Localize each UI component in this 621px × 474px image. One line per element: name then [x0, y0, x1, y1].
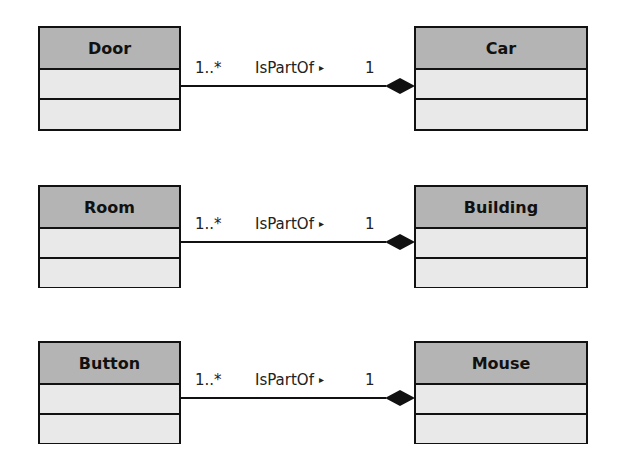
whole-multiplicity: 1 [365, 215, 375, 233]
operations-compartment [40, 415, 179, 443]
attributes-compartment [416, 229, 586, 259]
attributes-compartment [40, 385, 179, 415]
class-name: Mouse [416, 343, 586, 385]
class-room[interactable]: Room [38, 185, 181, 288]
operations-compartment [40, 259, 179, 287]
attributes-compartment [416, 385, 586, 415]
class-name: Building [416, 187, 586, 229]
class-name: Button [40, 343, 179, 385]
whole-multiplicity: 1 [365, 59, 375, 77]
direction-arrow-icon: ▸ [319, 62, 324, 73]
part-multiplicity: 1..* [195, 371, 222, 389]
direction-arrow-icon: ▸ [319, 374, 324, 385]
composition-line [181, 232, 414, 252]
class-car[interactable]: Car [414, 26, 588, 131]
association-label: IsPartOf▸ [255, 215, 324, 233]
composition-line [181, 388, 414, 408]
class-name: Door [40, 28, 179, 70]
class-mouse[interactable]: Mouse [414, 341, 588, 444]
association-label: IsPartOf▸ [255, 371, 324, 389]
attributes-compartment [40, 70, 179, 100]
composition-line [181, 76, 414, 96]
part-multiplicity: 1..* [195, 215, 222, 233]
part-multiplicity: 1..* [195, 59, 222, 77]
association-label: IsPartOf▸ [255, 59, 324, 77]
operations-compartment [40, 100, 179, 128]
operations-compartment [416, 259, 586, 287]
class-door[interactable]: Door [38, 26, 181, 131]
attributes-compartment [416, 70, 586, 100]
filled-diamond-icon [385, 390, 415, 406]
filled-diamond-icon [385, 78, 415, 94]
attributes-compartment [40, 229, 179, 259]
class-building[interactable]: Building [414, 185, 588, 288]
class-button[interactable]: Button [38, 341, 181, 444]
class-name: Room [40, 187, 179, 229]
filled-diamond-icon [385, 234, 415, 250]
direction-arrow-icon: ▸ [319, 218, 324, 229]
operations-compartment [416, 415, 586, 443]
operations-compartment [416, 100, 586, 128]
whole-multiplicity: 1 [365, 371, 375, 389]
class-name: Car [416, 28, 586, 70]
